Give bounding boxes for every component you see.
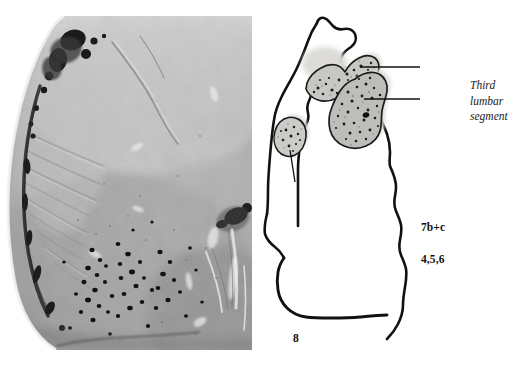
caption-line-2: lumbar — [470, 94, 528, 110]
spinal-cord-outline-tracing — [260, 0, 470, 369]
caption-line-3: segment — [470, 109, 528, 125]
photomicrograph-panel — [0, 16, 252, 350]
nucleus-label-7bc: 7b+c — [421, 222, 445, 234]
photomicrograph-image — [0, 16, 252, 350]
figure-page: 7b+c 4,5,6 8 Third lumbar segment — [0, 0, 529, 369]
line-drawing-panel — [260, 0, 470, 369]
nucleus-label-456: 4,5,6 — [421, 254, 445, 266]
nucleus-label-8: 8 — [293, 333, 299, 345]
figure-caption: Third lumbar segment — [470, 78, 528, 125]
caption-line-1: Third — [470, 78, 528, 94]
